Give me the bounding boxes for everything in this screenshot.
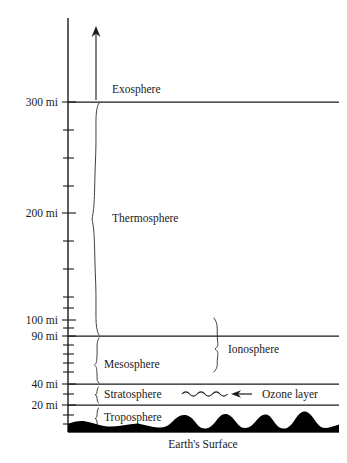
- ozone-layer-label: Ozone layer: [262, 388, 318, 401]
- layer-label-exosphere: Exosphere: [112, 83, 161, 96]
- layer-label-stratosphere: Stratosphere: [104, 388, 161, 401]
- axis-label-200mi: 200 mi: [26, 207, 58, 219]
- axis-label-100mi: 100 mi: [26, 314, 58, 326]
- axis-label-300mi: 300 mi: [26, 96, 58, 108]
- ionosphere-brace: [214, 318, 218, 372]
- stratosphere-brace: [95, 387, 99, 403]
- ozone-wave-icon: [182, 392, 228, 396]
- layer-label-thermosphere: Thermosphere: [112, 212, 178, 225]
- atmosphere-layers-diagram: 300 mi 200 mi 100 mi 90 mi 40 mi 20 mi E…: [0, 0, 347, 463]
- mesosphere-brace: [95, 338, 100, 383]
- major-ticks: [62, 102, 76, 405]
- thermosphere-brace: [92, 103, 99, 335]
- earth-surface-label: Earth's Surface: [168, 438, 237, 450]
- diagram-canvas: 300 mi 200 mi 100 mi 90 mi 40 mi 20 mi E…: [0, 0, 347, 463]
- upward-arrow: [92, 26, 101, 100]
- axis-label-20mi: 20 mi: [31, 399, 58, 411]
- layer-label-ionosphere: Ionosphere: [228, 343, 279, 356]
- axis-label-90mi: 90 mi: [31, 330, 58, 342]
- layer-label-troposphere: Troposphere: [104, 411, 162, 424]
- ozone-pointer-arrow: [231, 390, 252, 398]
- layer-label-mesosphere: Mesosphere: [104, 358, 160, 371]
- axis-label-40mi: 40 mi: [31, 378, 58, 390]
